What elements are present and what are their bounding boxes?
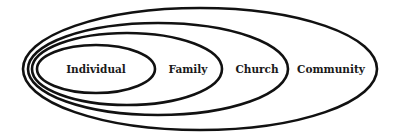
- label-family: Family: [169, 63, 209, 75]
- label-community: Community: [297, 63, 366, 75]
- nested-ellipse-diagram: Individual Family Church Community: [0, 0, 395, 139]
- label-church: Church: [235, 63, 279, 75]
- label-individual: Individual: [66, 63, 126, 75]
